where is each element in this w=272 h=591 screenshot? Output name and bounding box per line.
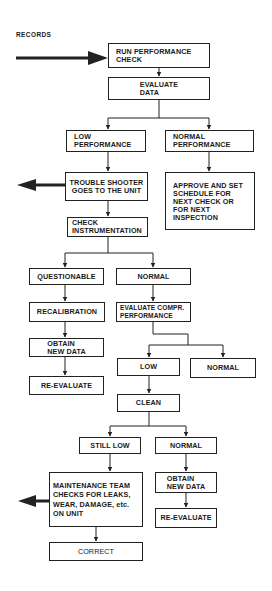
node-re-evaluate-left: RE-EVALUATE [29, 376, 104, 395]
flowchart-canvas: RECORDS RUN PERFORMANCE CHECK EVALUATE D… [0, 0, 272, 591]
node-label: NORMAL [170, 442, 202, 450]
node-check-instrumentation: CHECK INSTRUMENTATION [67, 217, 148, 237]
node-label: LOW PERFORMANCE [74, 133, 131, 149]
trouble-out-arrowhead-icon [17, 179, 36, 191]
maintenance-out-arrowhead-icon [18, 495, 36, 507]
node-low: LOW [117, 358, 180, 376]
node-label: OBTAIN NEW DATA [167, 475, 205, 491]
node-clean: CLEAN [117, 394, 180, 412]
node-label: NORMAL PERFORMANCE [173, 133, 230, 149]
node-label: TROUBLE SHOOTER GOES TO THE UNIT [70, 179, 144, 195]
node-approve-schedule: APPROVE AND SET SCHEDULE FOR NEXT CHECK … [165, 172, 255, 230]
node-normal-instrumentation: NORMAL [116, 268, 191, 285]
node-label: CORRECT [78, 548, 114, 556]
node-label: EVALUATE COMPR. PERFORMANCE [120, 304, 184, 320]
node-normal-compr: NORMAL [190, 358, 256, 378]
node-label: EVALUATE DATA [140, 81, 178, 97]
node-label: APPROVE AND SET SCHEDULE FOR NEXT CHECK … [173, 182, 243, 222]
node-evaluate-compr-performance: EVALUATE COMPR. PERFORMANCE [116, 302, 191, 322]
node-obtain-new-data-left: OBTAIN NEW DATA [29, 338, 104, 357]
records-label: RECORDS [16, 31, 51, 38]
node-still-low: STILL LOW [79, 437, 141, 454]
node-label: RE-EVALUATE [41, 382, 92, 390]
node-label: CLEAN [136, 399, 161, 407]
node-recalibration: RECALIBRATION [29, 302, 105, 322]
node-re-evaluate-right: RE-EVALUATE [155, 508, 217, 528]
node-label: OBTAIN NEW DATA [47, 340, 85, 356]
node-low-performance: LOW PERFORMANCE [66, 130, 146, 152]
node-label: NORMAL [137, 273, 169, 281]
node-label: CHECK INSTRUMENTATION [72, 219, 142, 235]
node-questionable: QUESTIONABLE [29, 268, 104, 285]
node-obtain-new-data-right: OBTAIN NEW DATA [155, 472, 217, 493]
node-label: RECALIBRATION [37, 308, 97, 316]
node-evaluate-data: EVALUATE DATA [108, 77, 210, 100]
node-label: RUN PERFORMANCE CHECK [116, 48, 191, 64]
node-run-performance-check: RUN PERFORMANCE CHECK [108, 43, 210, 68]
node-label: STILL LOW [90, 442, 130, 450]
node-normal-after-clean: NORMAL [155, 437, 217, 454]
node-label: LOW [140, 363, 157, 371]
records-arrowhead-icon [88, 51, 108, 65]
node-maintenance-team: MAINTENANCE TEAM CHECKS FOR LEAKS, WEAR,… [49, 472, 143, 527]
node-label: MAINTENANCE TEAM CHECKS FOR LEAKS, WEAR,… [53, 481, 131, 519]
node-normal-performance: NORMAL PERFORMANCE [165, 130, 254, 152]
node-label: QUESTIONABLE [37, 273, 95, 281]
node-trouble-shooter: TROUBLE SHOOTER GOES TO THE UNIT [65, 172, 148, 201]
node-label: RE-EVALUATE [160, 514, 211, 522]
node-correct: CORRECT [49, 542, 143, 561]
node-label: NORMAL [207, 364, 239, 372]
